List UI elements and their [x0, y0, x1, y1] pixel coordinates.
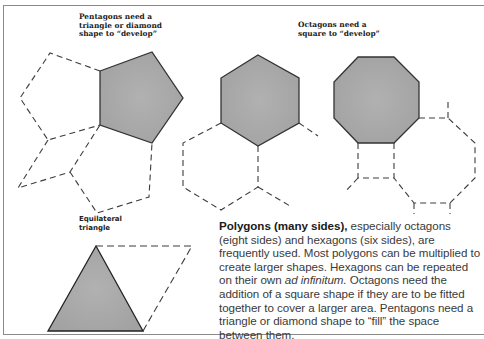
- italic-phrase: ad infinitum.: [285, 273, 347, 286]
- octagon-group: [334, 57, 475, 214]
- pentagon-group: [18, 52, 183, 213]
- body-paragraph: Polygons (many sides), especially octago…: [219, 219, 481, 339]
- caption-triangle: Equilateral triangle: [79, 215, 139, 232]
- dashed-square: [358, 143, 394, 178]
- hexagon-group: [183, 55, 318, 210]
- dashed-pentagon: [20, 53, 100, 140]
- caption-line: Equilateral: [79, 215, 139, 224]
- dashed-diamond: [18, 125, 100, 188]
- filled-triangle: [48, 246, 143, 331]
- filled-octagon: [334, 57, 419, 143]
- caption-pentagons: Pentagons need a triangle or diamond sha…: [79, 13, 179, 39]
- caption-octagons: Octagons need a square to “develop”: [298, 21, 398, 38]
- filled-hexagon: [221, 55, 299, 146]
- lead-heading: Polygons (many sides),: [219, 219, 347, 232]
- triangle-group: [48, 246, 192, 331]
- caption-line: shape to “develop”: [79, 30, 179, 39]
- caption-line: square to “develop”: [298, 30, 398, 39]
- filled-pentagon: [100, 52, 183, 143]
- caption-line: triangle: [79, 224, 139, 233]
